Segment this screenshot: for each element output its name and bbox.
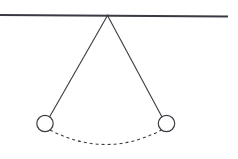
pivot-point-marker xyxy=(106,14,108,16)
swing-arc-dashed-path xyxy=(50,130,162,145)
string-left-line xyxy=(50,16,108,118)
string-right-line xyxy=(108,16,163,118)
support-beam-line xyxy=(0,15,228,17)
bob-right-circle xyxy=(158,115,174,131)
bob-left-circle xyxy=(37,115,53,131)
diagram-canvas xyxy=(0,0,238,159)
pendulum-diagram xyxy=(0,0,238,159)
